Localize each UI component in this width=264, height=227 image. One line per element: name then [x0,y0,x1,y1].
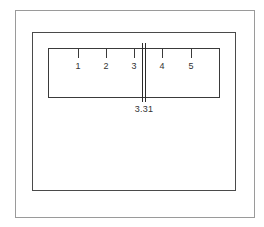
tick-label-5: 5 [184,61,198,71]
tick-4 [162,48,163,58]
tick-label-1: 1 [71,61,85,71]
tick-2 [106,48,107,58]
cursor-reading: 3.31 [130,104,158,114]
tick-label-4: 4 [155,61,169,71]
tick-1 [78,48,79,58]
cursor-hairline-right [145,43,146,102]
tick-label-3: 3 [127,61,141,71]
tick-label-2: 2 [99,61,113,71]
cursor-hairline-left [142,43,143,102]
tick-5 [191,48,192,58]
tick-3 [134,48,135,58]
